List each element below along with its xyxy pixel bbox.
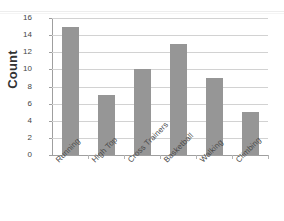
y-tick-label: 8	[10, 83, 32, 91]
y-tick-label: 0	[10, 151, 32, 159]
gridline	[52, 87, 268, 88]
y-tick-label: 12	[10, 48, 32, 56]
scan-artifact-line-secondary	[0, 13, 284, 14]
gridline	[52, 104, 268, 105]
y-tick-mark	[49, 121, 52, 122]
y-tick-label: 10	[10, 65, 32, 73]
gridline	[52, 138, 268, 139]
gridline	[52, 18, 268, 19]
bar	[62, 27, 79, 155]
y-tick-mark	[49, 18, 52, 19]
y-tick-label: 14	[10, 31, 32, 39]
y-tick-label: 4	[10, 117, 32, 125]
gridline	[52, 121, 268, 122]
y-tick-mark	[49, 52, 52, 53]
y-tick-mark	[49, 138, 52, 139]
y-tick-mark	[49, 87, 52, 88]
y-tick-label: 6	[10, 100, 32, 108]
y-tick-label: 16	[10, 14, 32, 22]
scan-artifact-line	[0, 11, 284, 12]
bar-chart-figure: Count 1614121086420 RunningHigh TopCross…	[0, 0, 284, 221]
x-axis-category-labels: RunningHigh TopCross TrainersBasketballW…	[52, 158, 284, 221]
gridline	[52, 69, 268, 70]
y-tick-mark	[49, 69, 52, 70]
gridline	[52, 52, 268, 53]
y-tick-mark	[49, 35, 52, 36]
y-tick-label: 2	[10, 134, 32, 142]
gridline	[52, 35, 268, 36]
y-tick-mark	[49, 155, 52, 156]
y-tick-mark	[49, 104, 52, 105]
